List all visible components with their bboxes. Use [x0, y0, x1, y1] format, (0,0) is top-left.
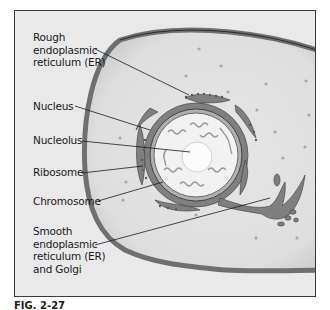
nucleolus [182, 142, 212, 172]
label-ribosome: Ribosome [33, 166, 83, 179]
label-nucleolus: Nucleolus [33, 134, 82, 147]
figure-caption: FIG. 2-27 [14, 300, 65, 310]
label-rough-er: Rough endoplasmic reticulum (ER) [33, 31, 105, 69]
label-nucleus: Nucleus [33, 100, 73, 113]
label-chromosome: Chromosome [33, 195, 101, 208]
label-smooth-er-golgi: Smooth endoplasmic reticulum (ER) and Go… [33, 225, 105, 275]
